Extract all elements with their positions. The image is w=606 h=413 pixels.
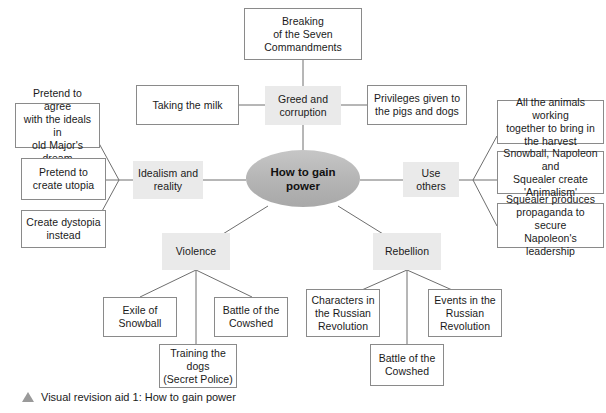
node-pretend-create-utopia[interactable]: Pretend to create utopia xyxy=(21,158,106,200)
center-node-how-to-gain-power[interactable]: How to gain power xyxy=(246,150,360,207)
edge-violence-cowshed xyxy=(196,270,252,297)
node-characters-russian-revolution[interactable]: Characters in the Russian Revolution xyxy=(306,289,380,337)
mind-map-diagram: Breaking of the Seven Commandments Takin… xyxy=(0,0,606,413)
edge-useothers-propaganda xyxy=(473,180,497,226)
node-rebellion[interactable]: Rebellion xyxy=(373,233,441,270)
node-privileges-pigs-dogs[interactable]: Privileges given to the pigs and dogs xyxy=(367,85,467,125)
figure-caption: Visual revision aid 1: How to gain power xyxy=(22,391,236,403)
node-use-others[interactable]: Use others xyxy=(403,162,459,197)
node-idealism-and-reality[interactable]: Idealism and reality xyxy=(133,161,203,199)
node-taking-the-milk[interactable]: Taking the milk xyxy=(136,85,239,125)
node-exile-of-snowball[interactable]: Exile of Snowball xyxy=(103,297,177,337)
node-snowball-napoleon-animalism[interactable]: Snowball, Napoleon and Squealer create '… xyxy=(497,151,604,194)
triangle-up-icon xyxy=(22,392,34,402)
node-battle-cowshed-rebellion[interactable]: Battle of the Cowshed xyxy=(370,344,444,386)
node-create-dystopia[interactable]: Create dystopia instead xyxy=(21,210,106,248)
node-greed-and-corruption[interactable]: Greed and corruption xyxy=(265,86,341,125)
edge-violence-exile xyxy=(140,270,196,297)
node-animals-working-harvest[interactable]: All the animals working together to brin… xyxy=(497,100,604,144)
node-training-the-dogs[interactable]: Training the dogs (Secret Police) xyxy=(159,344,237,388)
node-breaking-seven-commandments[interactable]: Breaking of the Seven Commandments xyxy=(244,8,362,60)
caption-text: Visual revision aid 1: How to gain power xyxy=(41,391,236,403)
node-squealer-propaganda[interactable]: Squealer produces propaganda to secure N… xyxy=(497,203,604,248)
node-pretend-to-agree[interactable]: Pretend to agree with the ideals in old … xyxy=(15,103,100,148)
node-violence[interactable]: Violence xyxy=(162,233,230,270)
node-battle-cowshed-violence[interactable]: Battle of the Cowshed xyxy=(214,297,288,337)
edge-useothers-harvest xyxy=(473,136,497,180)
node-events-russian-revolution[interactable]: Events in the Russian Revolution xyxy=(428,289,502,337)
